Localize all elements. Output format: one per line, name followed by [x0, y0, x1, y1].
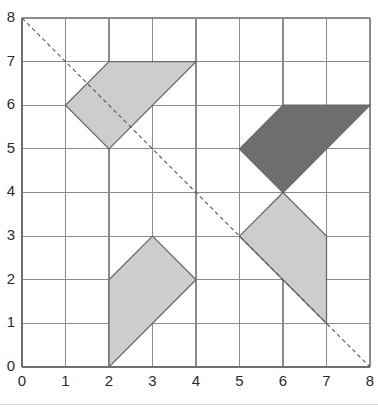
x-tick-label-0: 0 [18, 372, 26, 389]
y-tick-label-1: 1 [7, 313, 15, 330]
x-tick-label-3: 3 [148, 372, 156, 389]
y-tick-label-6: 6 [7, 95, 15, 112]
y-tick-label-4: 4 [7, 182, 15, 199]
y-tick-label-0: 0 [7, 357, 15, 374]
x-tick-label-5: 5 [235, 372, 243, 389]
x-tick-label-2: 2 [105, 372, 113, 389]
y-tick-label-2: 2 [7, 270, 15, 287]
x-tick-label-4: 4 [192, 372, 200, 389]
x-tick-label-7: 7 [322, 372, 330, 389]
x-tick-label-1: 1 [61, 372, 69, 389]
y-tick-label-3: 3 [7, 226, 15, 243]
figure-root: 012345678012345678 [0, 0, 378, 409]
footer-divider [0, 404, 378, 405]
y-tick-label-7: 7 [7, 52, 15, 69]
x-tick-label-6: 6 [279, 372, 287, 389]
x-tick-label-8: 8 [366, 372, 374, 389]
y-tick-label-5: 5 [7, 139, 15, 156]
y-tick-label-8: 8 [7, 8, 15, 25]
coordinate-grid-chart: 012345678012345678 [0, 0, 378, 409]
